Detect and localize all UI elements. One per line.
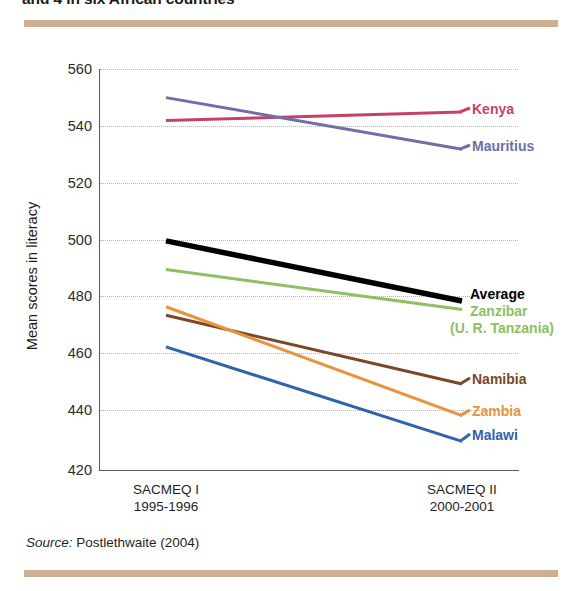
series-label-malawi[interactable]: Malawi <box>472 427 518 443</box>
page-title: and 4 in six African countries <box>22 0 562 7</box>
decorative-rule-top <box>24 20 558 27</box>
plot-area <box>99 69 519 471</box>
series-label-mauritius[interactable]: Mauritius <box>472 138 534 154</box>
source-text: Postlethwaite (2004) <box>73 535 200 550</box>
series-label-zambia[interactable]: Zambia <box>472 403 521 419</box>
x-tick-label: SACMEQ II <box>367 481 557 498</box>
series-label-namibia[interactable]: Namibia <box>472 371 526 387</box>
series-label-zanzibar-sub: (U. R. Tanzania) <box>450 320 554 336</box>
source-note: Source: Postlethwaite (2004) <box>26 535 199 550</box>
x-tick-sublabel: 2000-2001 <box>367 498 557 515</box>
y-tick-label: 440 <box>40 403 92 418</box>
y-tick-label: 500 <box>40 233 92 248</box>
x-tick-sacmeq-1: SACMEQ I 1995-1996 <box>71 481 261 515</box>
series-label-kenya[interactable]: Kenya <box>472 101 514 117</box>
y-tick-label: 420 <box>40 463 92 478</box>
y-tick-label: 480 <box>40 289 92 304</box>
series-label-zanzibar[interactable]: Zanzibar <box>470 303 528 319</box>
x-tick-label: SACMEQ I <box>71 481 261 498</box>
decorative-rule-bottom <box>24 570 558 577</box>
x-tick-sacmeq-2: SACMEQ II 2000-2001 <box>367 481 557 515</box>
y-tick-label: 560 <box>40 62 92 77</box>
y-tick-label: 540 <box>40 119 92 134</box>
series-label-average[interactable]: Average <box>470 286 525 302</box>
source-prefix: Source: <box>26 535 73 550</box>
y-tick-label: 460 <box>40 346 92 361</box>
y-axis-title: Mean scores in literacy <box>24 126 40 426</box>
x-tick-sublabel: 1995-1996 <box>71 498 261 515</box>
y-tick-label: 520 <box>40 176 92 191</box>
